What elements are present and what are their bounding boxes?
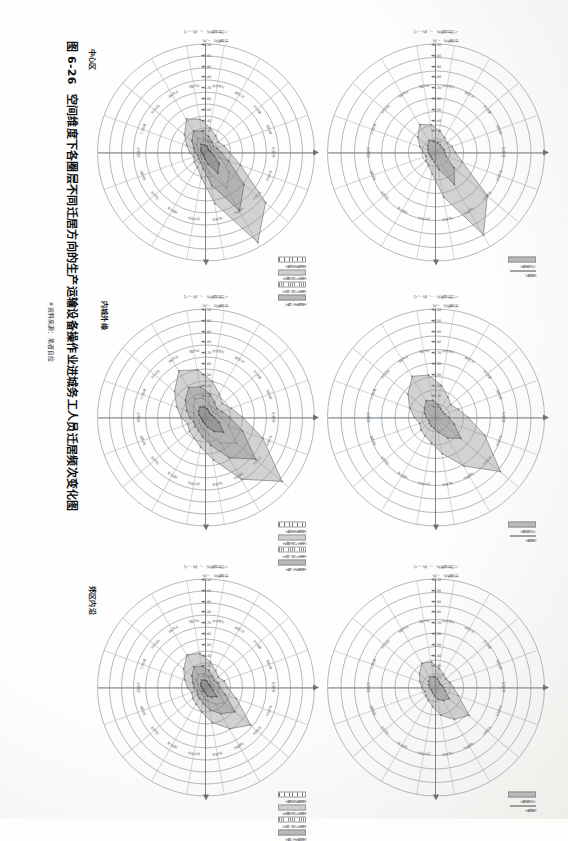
legend-swatch — [278, 791, 306, 797]
legend-swatch — [278, 816, 306, 822]
legend-item[interactable]: 迁居频次迁入频次 — [278, 829, 306, 840]
series-layer — [318, 305, 548, 535]
legend-swatch — [278, 294, 306, 300]
series-point — [439, 667, 441, 669]
series-point — [223, 680, 225, 682]
legend-label: 迁居务人口迁出频次 — [284, 276, 307, 279]
legend-label: 人口迁移频次 — [521, 799, 536, 802]
chart-legend: 人口迁移频次迁居频次 — [508, 256, 536, 276]
legend-swatch — [278, 521, 306, 527]
axis-title: 人口迁移频次 /（次/人） — [411, 28, 458, 32]
legend-item[interactable]: 迁居务人口迁入频次 — [278, 281, 306, 292]
legend-item[interactable]: 迁居务人口迁出频次 — [278, 269, 306, 280]
series-point — [428, 374, 430, 376]
series-layer — [318, 40, 548, 270]
series-point — [212, 380, 214, 382]
series-layer — [88, 305, 318, 535]
legend-swatch — [278, 256, 306, 262]
legend-label: 迁居务人口迁入频次 — [284, 554, 307, 557]
series-point — [178, 369, 180, 371]
legend-swatch — [278, 269, 306, 275]
figure-title: 空间维度下各圈层不同迁居方向的生产运输设备操作业进城务工人员迁居频次变化图 — [65, 93, 78, 511]
legend-swatch — [508, 256, 536, 262]
legend-label: 迁居频次迁出频次 — [286, 529, 306, 532]
legend-swatch — [510, 535, 536, 536]
legend-swatch — [278, 804, 306, 810]
series-point — [210, 661, 212, 663]
series-point — [449, 681, 451, 683]
legend-label: 迁居务人口迁入频次 — [284, 824, 307, 827]
series-layer — [88, 40, 318, 270]
legend-swatch — [278, 281, 306, 287]
legend-item[interactable]: 迁居频次迁出频次 — [278, 521, 306, 532]
legend-label: 迁居频次迁入频次 — [286, 567, 306, 570]
legend-item[interactable]: 迁居务人口迁入频次 — [278, 546, 306, 557]
legend-item[interactable]: 人口迁移频次 — [508, 521, 536, 532]
legend-label: 迁居务人口迁入频次 — [284, 289, 307, 292]
legend-swatch — [508, 521, 536, 527]
legend-label: 迁居务人口迁出频次 — [284, 811, 307, 814]
series-point — [186, 117, 188, 119]
chart-legend: 人口迁移频次迁居频次 — [508, 521, 536, 541]
legend-swatch — [278, 829, 306, 835]
series-point — [411, 375, 413, 377]
chart-legend: 迁居频次迁出频次迁居务人口迁出频次迁居务人口迁入频次迁居频次迁入频次 — [278, 791, 306, 840]
radar-chart-suburb-bottom: 住房条件就业机会生活成本交通便利子女教育医疗服务社区环境社会关系居住面积房租水平… — [88, 575, 318, 805]
legend-label: 迁居务人口迁出频次 — [284, 541, 307, 544]
legend-swatch — [510, 805, 536, 806]
chart-legend: 人口迁移频次迁居频次 — [508, 791, 536, 811]
series-point — [199, 652, 201, 654]
legend-item[interactable]: 迁居频次 — [508, 269, 536, 276]
axis-title: 人口迁移频次 /（次/人） — [181, 28, 228, 32]
axis-title: 人口迁移频次 /（次/人） — [181, 293, 228, 297]
legend-item[interactable]: 迁居频次迁入频次 — [278, 294, 306, 305]
chart-legend: 迁居频次迁出频次迁居务人口迁出频次迁居务人口迁入频次迁居频次迁入频次 — [278, 521, 306, 570]
series-point — [209, 127, 211, 129]
series-point — [197, 368, 199, 370]
legend-item[interactable]: 人口迁移频次 — [508, 256, 536, 267]
series-point — [199, 118, 201, 120]
legend-item[interactable]: 迁居务人口迁出频次 — [278, 804, 306, 815]
radar-chart-center-bottom: 住房条件就业机会生活成本交通便利子女教育医疗服务社区环境社会关系居住面积房租水平… — [88, 40, 318, 270]
legend-item[interactable]: 迁居频次 — [508, 534, 536, 541]
legend-swatch — [510, 270, 536, 271]
series-layer — [88, 575, 318, 805]
series-point — [431, 661, 433, 663]
series-layer — [318, 575, 548, 805]
legend-label: 人口迁移频次 — [521, 264, 536, 267]
axis-title: 人口迁移频次 /（次/人） — [181, 563, 228, 567]
legend-label: 迁居频次迁入频次 — [286, 837, 306, 840]
radar-chart-inner-bottom: 住房条件就业机会生活成本交通便利子女教育医疗服务社区环境社会关系居住面积房租水平… — [88, 305, 318, 535]
radar-chart-center-top: 住房条件就业机会生活成本交通便利子女教育医疗服务社区环境社会关系居住面积房租水平… — [318, 40, 548, 270]
legend-item[interactable]: 迁居频次迁出频次 — [278, 791, 306, 802]
legend-swatch — [278, 559, 306, 565]
axis-title: 人口迁移频次 /（次/人） — [411, 293, 458, 297]
series-point — [441, 384, 443, 386]
legend-label: 迁居频次迁入频次 — [286, 302, 306, 305]
legend-label: 迁居频次 — [526, 273, 536, 276]
chart-grid: 住房条件就业机会生活成本交通便利子女教育医疗服务社区环境社会关系居住面积房租水平… — [68, 0, 568, 819]
legend-item[interactable]: 迁居务人口迁出频次 — [278, 534, 306, 545]
series-point — [457, 408, 459, 410]
legend-item[interactable]: 迁居频次迁入频次 — [278, 559, 306, 570]
series-point — [223, 145, 225, 147]
legend-item[interactable]: 迁居频次 — [508, 804, 536, 811]
radar-chart-inner-top: 住房条件就业机会生活成本交通便利子女教育医疗服务社区环境社会关系居住面积房租水平… — [318, 305, 548, 535]
series-polygon — [408, 375, 501, 472]
series-point — [231, 407, 233, 409]
series-point — [419, 123, 421, 125]
legend-item[interactable]: 迁居务人口迁入频次 — [278, 816, 306, 827]
legend-swatch — [278, 534, 306, 540]
series-point — [186, 653, 188, 655]
series-point — [439, 130, 441, 132]
series-point — [451, 145, 453, 147]
legend-label: 迁居频次迁出频次 — [286, 799, 306, 802]
legend-swatch — [278, 546, 306, 552]
chart-legend: 迁居频次迁出频次迁居务人口迁出频次迁居务人口迁入频次迁居频次迁入频次 — [278, 256, 306, 305]
legend-label: 迁居频次 — [526, 808, 536, 811]
legend-item[interactable]: 人口迁移频次 — [508, 791, 536, 802]
legend-label: 迁居频次迁出频次 — [286, 264, 306, 267]
figure-number: 图 6-26 — [65, 40, 78, 84]
legend-item[interactable]: 迁居频次迁出频次 — [278, 256, 306, 267]
